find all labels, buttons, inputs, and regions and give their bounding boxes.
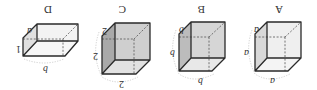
option-b-letter: B bbox=[198, 4, 205, 16]
option-c-letter: C bbox=[119, 4, 126, 16]
cube-b-front-face bbox=[191, 22, 225, 58]
cube-c-label-side: 2 bbox=[93, 51, 98, 62]
box-d: a 1 b D bbox=[16, 4, 78, 75]
option-a-letter: A bbox=[275, 4, 283, 16]
cube-c-label-top: 2 bbox=[102, 26, 107, 37]
box-d-front-face bbox=[37, 24, 78, 41]
cube-a: a a a A bbox=[244, 4, 301, 87]
cube-c: 2 2 2 C bbox=[93, 4, 150, 90]
cube-b-label-top: b bbox=[179, 25, 184, 36]
cube-a-label-bottom: a bbox=[270, 76, 275, 87]
cube-b-label-bottom: b bbox=[198, 76, 203, 87]
shapes-figure: a a a A b b b B 2 2 2 bbox=[0, 0, 317, 90]
box-d-label-side: 1 bbox=[16, 44, 21, 55]
box-d-label-bottom: b bbox=[43, 64, 48, 75]
cube-b: b b b B bbox=[170, 4, 225, 87]
cube-c-label-bottom: 2 bbox=[119, 79, 124, 90]
box-d-dimension-arc bbox=[24, 59, 64, 63]
box-d-label-top: a bbox=[27, 26, 32, 37]
option-d-letter: D bbox=[44, 4, 52, 16]
cube-b-label-side: b bbox=[170, 48, 175, 59]
cube-a-front-face bbox=[267, 22, 301, 58]
figure-stage: a a a A b b b B 2 2 2 bbox=[0, 0, 317, 90]
cube-a-label-top: a bbox=[254, 25, 259, 36]
cube-a-label-side: a bbox=[244, 48, 249, 59]
